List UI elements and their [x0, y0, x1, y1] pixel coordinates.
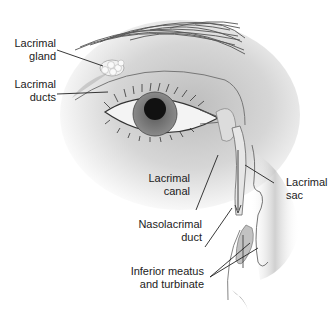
label-lacrimal-gland: Lacrimal gland [10, 37, 56, 63]
pupil [144, 98, 166, 120]
label-nasolacrimal-duct: Nasolacrimal duct [120, 218, 202, 244]
label-inferior-meatus: Inferior meatus and turbinate [118, 265, 204, 291]
label-lacrimal-canal: Lacrimal canal [140, 172, 190, 198]
turbinate-shape [236, 225, 253, 264]
lacrimal-gland-shape [100, 60, 124, 76]
label-lacrimal-ducts: Lacrimal ducts [10, 78, 56, 104]
label-lacrimal-sac: Lacrimal sac [286, 176, 328, 202]
lacrimal-diagram: Lacrimal gland Lacrimal ducts Lacrimal s… [0, 0, 336, 318]
